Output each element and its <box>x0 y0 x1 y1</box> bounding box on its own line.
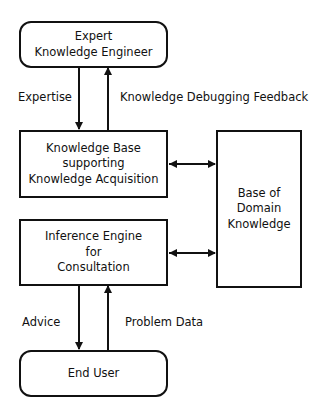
inference-engine-node: Inference Engine for Consultation <box>19 219 168 286</box>
ie-line-3: Consultation <box>57 260 129 276</box>
expert-node: Expert Knowledge Engineer <box>19 21 168 68</box>
expert-line-2: Knowledge Engineer <box>34 45 152 61</box>
dk-line-2: Domain <box>237 201 282 217</box>
end-user-node: End User <box>19 350 168 397</box>
ie-line-1: Inference Engine <box>45 229 142 245</box>
domain-knowledge-node: Base of Domain Knowledge <box>216 130 302 288</box>
dk-line-3: Knowledge <box>227 217 290 233</box>
debugging-feedback-label: Knowledge Debugging Feedback <box>120 90 308 104</box>
kb-line-3: Knowledge Acquisition <box>29 172 159 188</box>
dk-line-1: Base of <box>238 186 281 202</box>
problem-data-label: Problem Data <box>125 315 203 329</box>
end-user-line-1: End User <box>68 366 120 382</box>
knowledge-base-node: Knowledge Base supporting Knowledge Acqu… <box>19 130 168 198</box>
kb-line-1: Knowledge Base <box>46 141 141 157</box>
ie-line-2: for <box>86 245 102 261</box>
expertise-label: Expertise <box>18 90 72 104</box>
kb-line-2: supporting <box>63 156 125 172</box>
expert-line-1: Expert <box>75 29 113 45</box>
advice-label: Advice <box>22 315 60 329</box>
